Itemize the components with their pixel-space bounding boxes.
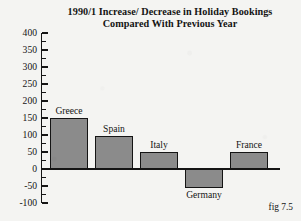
y-tick-label: 100 — [3, 130, 37, 140]
y-tick-label: 0 — [3, 164, 37, 174]
bar-greece — [50, 118, 88, 169]
chart-title: 1990/1 Increase/ Decrease in Holiday Boo… — [48, 6, 292, 30]
y-tick-label: 250 — [3, 79, 37, 89]
bar-label-greece: Greece — [40, 106, 98, 116]
chart-title-line-1: 1990/1 Increase/ Decrease in Holiday Boo… — [48, 6, 292, 18]
bar-label-france: France — [220, 140, 278, 150]
chart-title-line-2: Compared With Previous Year — [48, 18, 292, 30]
figure-container: 1990/1 Increase/ Decrease in Holiday Boo… — [0, 0, 301, 221]
bar-france — [230, 152, 268, 169]
y-tick-label: 150 — [3, 113, 37, 123]
y-tick-label: -50 — [3, 181, 37, 191]
bar-label-germany: Germany — [175, 190, 233, 200]
bar-label-italy: Italy — [130, 140, 188, 150]
y-tick-label: 200 — [3, 96, 37, 106]
bar-series: GreeceSpainItalyGermanyFrance — [41, 33, 280, 203]
bar-spain — [95, 136, 133, 169]
bar-italy — [140, 152, 178, 169]
y-axis-labels: 400350300250200150100500-50-100 — [3, 33, 37, 203]
y-tick-label: 400 — [3, 28, 37, 38]
bar-label-spain: Spain — [85, 124, 143, 134]
y-tick-label: 300 — [3, 62, 37, 72]
bar-germany — [185, 169, 223, 188]
y-tick-label: -100 — [3, 198, 37, 208]
y-tick-label: 350 — [3, 45, 37, 55]
y-tick-label: 50 — [3, 147, 37, 157]
figure-caption: fig 7.5 — [269, 202, 293, 212]
plot-area: 400350300250200150100500-50-100 GreeceSp… — [41, 33, 294, 203]
